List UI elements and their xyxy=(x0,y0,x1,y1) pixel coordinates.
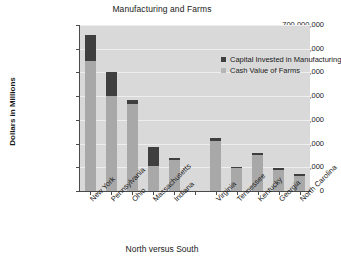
bar-segment-farms xyxy=(148,166,159,191)
bar-group xyxy=(85,25,96,191)
plot-area: Capital Invested in Manufacturing Cash V… xyxy=(80,25,310,191)
y-tick-mark xyxy=(76,120,79,121)
y-tick-mark xyxy=(76,167,79,168)
bar-segment-farms xyxy=(210,141,221,191)
chart-legend: Capital Invested in Manufacturing Cash V… xyxy=(221,55,341,77)
legend-label-farms: Cash Value of Farms xyxy=(230,66,300,75)
legend-swatch-icon-manufacturing xyxy=(221,57,226,62)
bar-group xyxy=(231,25,242,191)
y-tick-mark xyxy=(76,144,79,145)
y-tick-mark xyxy=(76,191,79,192)
bar-group xyxy=(294,25,305,191)
chart-title: Manufacturing and Farms xyxy=(0,4,324,14)
bar-segment-manufacturing xyxy=(252,153,263,155)
bar-segment-manufacturing xyxy=(106,72,117,96)
bar-segment-manufacturing xyxy=(231,167,242,169)
legend-item-manufacturing: Capital Invested in Manufacturing xyxy=(221,55,341,64)
x-axis-title: North versus South xyxy=(0,244,324,254)
bar-group xyxy=(210,25,221,191)
bar-segment-manufacturing xyxy=(169,158,180,160)
y-axis-title: Dollars in Millions xyxy=(8,64,17,160)
y-tick-mark xyxy=(76,25,79,26)
y-tick-mark xyxy=(76,72,79,73)
bar-segment-farms xyxy=(85,61,96,191)
legend-swatch-icon-farms xyxy=(221,68,226,73)
bar-group xyxy=(273,25,284,191)
bar-segment-manufacturing xyxy=(294,174,305,175)
bar-group xyxy=(169,25,180,191)
legend-item-farms: Cash Value of Farms xyxy=(221,66,341,75)
x-tick-mark xyxy=(195,192,196,195)
bar-segment-manufacturing xyxy=(273,168,284,170)
bar-group xyxy=(252,25,263,191)
bar-group xyxy=(148,25,159,191)
bar-segment-manufacturing xyxy=(127,100,138,104)
bar-segment-manufacturing xyxy=(85,35,96,61)
bar-group xyxy=(127,25,138,191)
bar-segment-manufacturing xyxy=(210,138,221,141)
bar-group xyxy=(106,25,117,191)
legend-label-manufacturing: Capital Invested in Manufacturing xyxy=(230,55,341,64)
bar-segment-manufacturing xyxy=(148,147,159,166)
y-tick-mark xyxy=(76,49,79,50)
y-tick-mark xyxy=(76,96,79,97)
